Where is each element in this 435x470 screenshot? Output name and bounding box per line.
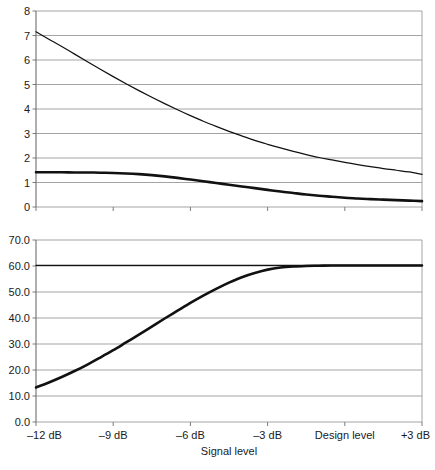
y-tick-label: 20.0 (9, 364, 30, 376)
data-series-upper-curve (36, 32, 422, 175)
y-tick-label: 10.0 (9, 390, 30, 402)
x-tick-label: –9 dB (99, 429, 128, 441)
y-tick-label: 5 (24, 79, 30, 91)
x-tick-label: –12 dB (27, 429, 62, 441)
y-tick-label: 0 (24, 201, 30, 213)
y-tick-label: 30.0 (9, 338, 30, 350)
y-tick-label: 40.0 (9, 312, 30, 324)
top-chart-svg: 012345678 (0, 0, 435, 220)
y-tick-label: 1 (24, 177, 30, 189)
y-tick-label: 70.0 (9, 234, 30, 246)
bottom-chart-panel: 0.010.020.030.040.050.060.070.0–12 dB–9 … (0, 228, 435, 470)
figure-container: 012345678 0.010.020.030.040.050.060.070.… (0, 0, 435, 470)
data-series-lower-curve (36, 172, 422, 201)
x-axis-title: Signal level (201, 445, 257, 457)
x-tick-label: –3 dB (253, 429, 282, 441)
y-tick-label: 6 (24, 54, 30, 66)
bottom-chart-svg: 0.010.020.030.040.050.060.070.0–12 dB–9 … (0, 228, 435, 470)
y-tick-label: 7 (24, 30, 30, 42)
x-tick-label: +3 dB (401, 429, 430, 441)
y-tick-label: 4 (24, 103, 30, 115)
data-series-saturation-curve (36, 265, 422, 387)
y-tick-label: 2 (24, 152, 30, 164)
x-tick-label: Design level (315, 429, 375, 441)
y-tick-label: 50.0 (9, 286, 30, 298)
y-tick-label: 0.0 (15, 416, 30, 428)
x-tick-label: –6 dB (176, 429, 205, 441)
y-tick-label: 60.0 (9, 260, 30, 272)
y-tick-label: 3 (24, 128, 30, 140)
top-chart-panel: 012345678 (0, 0, 435, 220)
y-tick-label: 8 (24, 5, 30, 17)
